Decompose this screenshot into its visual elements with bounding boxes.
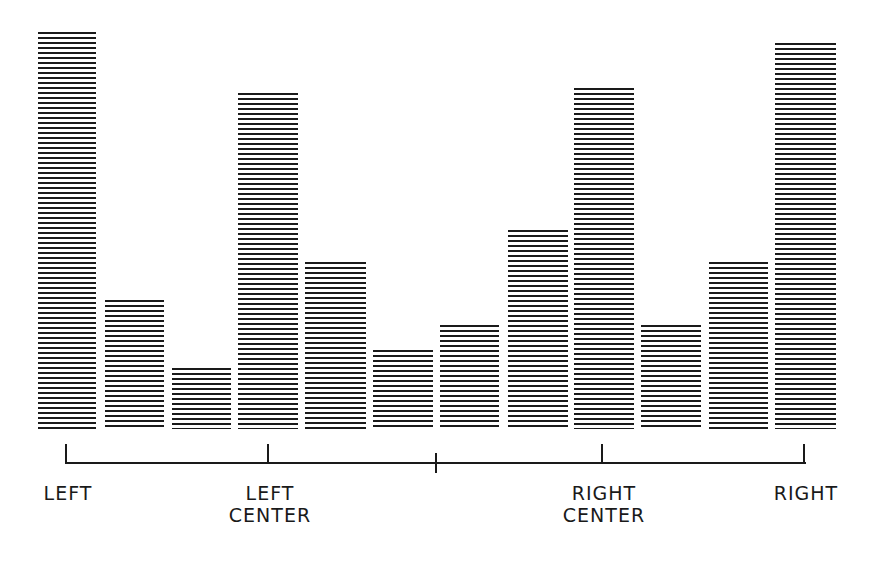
label-right-center: RIGHT CENTER xyxy=(563,482,645,526)
tick-left-center xyxy=(267,444,269,464)
bar-9 xyxy=(574,88,634,429)
label-left: LEFT xyxy=(44,482,93,504)
bar-6 xyxy=(373,350,433,429)
bar-4 xyxy=(238,93,298,429)
bar-1 xyxy=(38,32,96,429)
tick-right xyxy=(803,444,805,464)
bar-8 xyxy=(508,230,568,429)
bar-11 xyxy=(709,262,768,429)
bar-10 xyxy=(641,325,701,429)
bar-5 xyxy=(305,262,366,429)
tick-center xyxy=(435,453,437,473)
label-right: RIGHT xyxy=(774,482,838,504)
bar-3 xyxy=(172,368,231,429)
tick-right-center xyxy=(601,444,603,464)
bar-7 xyxy=(440,325,499,429)
tick-left xyxy=(65,444,67,464)
bar-2 xyxy=(105,300,164,429)
bar-chart: LEFT LEFT CENTER RIGHT CENTER RIGHT xyxy=(0,0,878,561)
label-left-center: LEFT CENTER xyxy=(229,482,311,526)
bar-12 xyxy=(775,43,836,429)
